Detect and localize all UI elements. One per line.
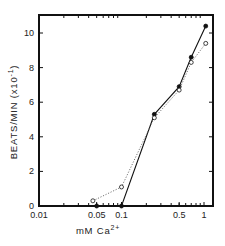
open-circle-marker [91, 199, 95, 203]
x-tick-label: 0.05 [88, 210, 106, 220]
open-circle-marker [152, 116, 156, 120]
x-axis-label: mM Ca2+ [76, 224, 120, 236]
x-tick-label: 0.1 [115, 210, 128, 220]
y-tick-label: 2 [29, 166, 34, 176]
x-axis-ticks: 0.010.050.10.51 [30, 15, 206, 220]
y-tick-label: 10 [24, 28, 34, 38]
filled-circle-marker [120, 204, 124, 208]
open-circle-marker [177, 88, 181, 92]
y-tick-label: 0 [29, 201, 34, 211]
filled-circle-marker [95, 204, 99, 208]
y-tick-label: 8 [29, 63, 34, 73]
y-axis-label: BEATS/MIN (x10-1) [7, 65, 19, 160]
open-circle-marker [204, 41, 208, 45]
y-tick-label: 4 [29, 132, 34, 142]
data-series [91, 24, 208, 208]
filled-series-line [97, 26, 206, 206]
x-tick-label: 1 [201, 210, 206, 220]
open-circle-marker [189, 60, 193, 64]
y-tick-label: 6 [29, 97, 34, 107]
x-tick-label: 0.01 [30, 210, 48, 220]
open-circle-marker [120, 185, 124, 189]
filled-circle-marker [189, 55, 193, 59]
open-series-line [93, 43, 206, 200]
beats-vs-calcium-chart: 0.010.050.10.51 0246810 mM Ca2+ BEATS/MI… [0, 0, 225, 246]
x-tick-label: 0.5 [173, 210, 186, 220]
filled-circle-marker [204, 24, 208, 28]
y-axis-ticks: 0246810 [24, 28, 213, 211]
